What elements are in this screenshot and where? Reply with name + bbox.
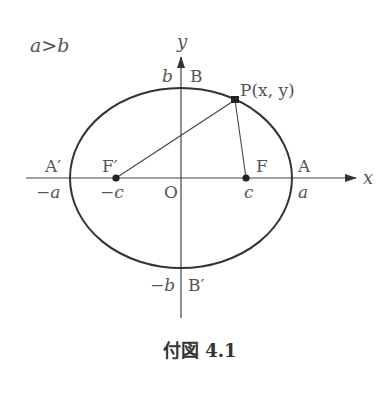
origin-label: O: [164, 182, 178, 202]
point-p-label: P(x, y): [240, 80, 295, 100]
point-p-marker: [231, 96, 239, 103]
tick-b: b: [162, 66, 173, 86]
point-bprime-label: B′: [188, 275, 204, 295]
point-f-label: F: [256, 156, 268, 176]
tick-c: c: [244, 182, 254, 202]
x-axis-label: x: [363, 167, 373, 188]
tick-neg-a: −a: [36, 182, 60, 202]
y-axis-label: y: [176, 31, 188, 52]
condition-label: a>b: [30, 34, 69, 56]
segment-f-p: [235, 100, 246, 178]
focus-f-dot: [242, 174, 249, 181]
point-a-label: A: [297, 156, 311, 176]
point-fprime-label: F′: [102, 156, 118, 176]
figure-caption: 付図 4.1: [163, 340, 237, 361]
tick-neg-b: −b: [150, 275, 175, 295]
segment-fprime-p: [116, 100, 235, 178]
ellipse-diagram: a>b y x O b B P(x, y) A′ −a F′ −c F c A …: [0, 0, 391, 393]
tick-neg-c: −c: [100, 182, 124, 202]
point-b-label: B: [190, 66, 203, 86]
tick-a: a: [298, 182, 308, 202]
point-aprime-label: A′: [44, 156, 61, 176]
